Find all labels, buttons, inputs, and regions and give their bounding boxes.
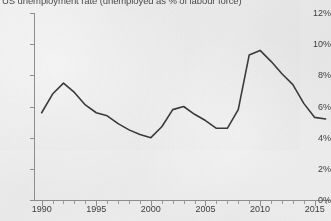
chart-screenshot: US unemployment rate (unemployed as % of… <box>0 0 331 221</box>
chart-plot-area: 0%2%4%6%8%10%12% 19901995200020052010201… <box>0 0 331 221</box>
data-series-layer <box>0 0 331 221</box>
unemployment-rate-line <box>42 50 326 137</box>
